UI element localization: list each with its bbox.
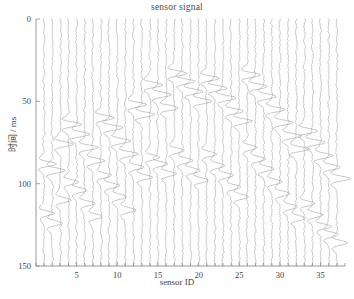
sensor-trace — [87, 19, 105, 266]
y-axis-title: 时间 / ms — [6, 95, 19, 175]
sensor-trace — [314, 19, 333, 266]
sensor-trace — [193, 19, 211, 266]
sensor-trace — [103, 19, 123, 266]
sensor-trace — [176, 19, 195, 266]
sensor-trace — [225, 19, 243, 266]
sensor-trace — [306, 19, 326, 266]
sensor-trace — [168, 19, 188, 266]
y-tick-label: 50 — [23, 96, 32, 106]
sensor-trace — [208, 19, 227, 266]
sensor-trace — [200, 19, 219, 266]
x-axis-title: sensor ID — [0, 277, 354, 287]
y-tick-label: 100 — [18, 179, 31, 189]
sensor-trace — [241, 19, 260, 266]
sensor-trace — [119, 19, 139, 266]
sensor-trace — [289, 19, 309, 266]
sensor-trace — [184, 19, 202, 266]
sensor-trace — [128, 19, 147, 266]
sensor-trace — [282, 19, 302, 266]
plot-area: 5101520253035 050100150 — [0, 0, 354, 299]
trace-lines — [38, 19, 350, 266]
sensor-trace — [54, 19, 74, 266]
sensor-trace — [216, 19, 236, 266]
sensor-trace — [257, 19, 276, 266]
sensor-trace — [233, 19, 252, 266]
sensor-trace — [298, 19, 317, 266]
sensor-trace — [160, 19, 178, 266]
sensor-trace — [152, 19, 171, 266]
sensor-trace — [96, 19, 115, 266]
sensor-trace — [79, 19, 99, 266]
sensor-trace — [62, 19, 82, 266]
sensor-trace — [266, 19, 286, 266]
sensor-trace — [331, 19, 351, 266]
sensor-trace — [46, 19, 65, 266]
sensor-trace — [135, 19, 154, 266]
y-axis-ticks: 050100150 — [18, 14, 40, 271]
y-tick-label: 0 — [27, 14, 31, 24]
sensor-trace — [144, 19, 163, 266]
sensor-trace — [111, 19, 130, 266]
y-tick-label: 150 — [18, 261, 31, 271]
chart-figure: sensor signal 5101520253035 050100150 se… — [0, 0, 354, 299]
